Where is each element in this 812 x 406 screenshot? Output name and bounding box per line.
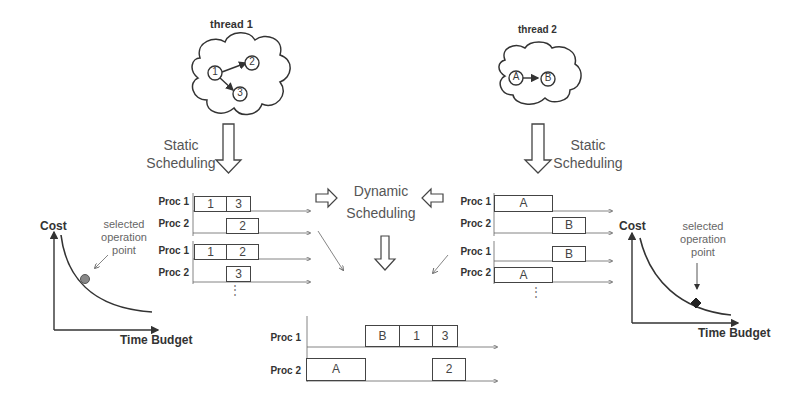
ellipsis-right: ⋮ bbox=[530, 287, 542, 298]
dyn-arrow-from-left bbox=[316, 189, 337, 207]
final-proc2-label: Proc 2 bbox=[257, 365, 301, 376]
node-B: B bbox=[543, 72, 553, 83]
node-1: 1 bbox=[211, 66, 219, 77]
label-line: Static bbox=[550, 136, 626, 154]
dyn-arrow-down bbox=[375, 236, 395, 270]
task-box: 3 bbox=[432, 325, 458, 347]
t1-s1-proc1-label: Proc 1 bbox=[145, 196, 189, 207]
task-box: B bbox=[365, 325, 400, 347]
task-box: 2 bbox=[226, 244, 259, 260]
t2-s2-proc2-label: Proc 2 bbox=[447, 267, 491, 278]
annotation-line: selected bbox=[96, 218, 152, 231]
task-box: B bbox=[552, 246, 586, 262]
left-cost-ylabel: Cost bbox=[40, 219, 67, 233]
task-box: 3 bbox=[226, 266, 251, 282]
t2-s1-proc1-label: Proc 1 bbox=[447, 196, 491, 207]
task-box: 2 bbox=[226, 218, 259, 234]
left-operation-point bbox=[81, 275, 90, 284]
label-line: Scheduling bbox=[340, 202, 422, 224]
static-arrow-right bbox=[525, 124, 551, 173]
thread1-title: thread 1 bbox=[210, 18, 253, 30]
annotation-line: point bbox=[676, 246, 730, 259]
node-3: 3 bbox=[236, 87, 244, 98]
dyn-arrow-from-right bbox=[422, 189, 443, 207]
label-line: Static bbox=[145, 136, 217, 154]
ellipsis-left: ⋮ bbox=[229, 285, 241, 296]
node-A: A bbox=[511, 71, 521, 82]
left-annotation: selected operation point bbox=[96, 218, 152, 257]
static-scheduling-left-label: Static Scheduling bbox=[145, 136, 217, 172]
task-box: A bbox=[494, 195, 553, 212]
t2-s2-proc1-label: Proc 1 bbox=[447, 246, 491, 257]
task-box: A bbox=[494, 267, 553, 283]
label-line: Scheduling bbox=[145, 154, 217, 172]
task-box: 3 bbox=[226, 196, 251, 212]
task-box: B bbox=[552, 217, 586, 234]
right-cost-ylabel: Cost bbox=[619, 219, 646, 233]
task-box: 1 bbox=[194, 244, 227, 260]
static-scheduling-right-label: Static Scheduling bbox=[550, 136, 626, 172]
label-line: Scheduling bbox=[550, 154, 626, 172]
task-box: 2 bbox=[432, 358, 466, 381]
thread1-cloud bbox=[192, 33, 290, 115]
dynamic-scheduling-label: Dynamic Scheduling bbox=[340, 180, 422, 224]
right-cost-xlabel: Time Budget bbox=[698, 326, 770, 340]
t2-s1-proc2-label: Proc 2 bbox=[447, 218, 491, 229]
thread2-title: thread 2 bbox=[518, 24, 557, 35]
final-proc1-label: Proc 1 bbox=[257, 332, 301, 343]
annotation-line: point bbox=[96, 244, 152, 257]
task-box: 1 bbox=[194, 196, 227, 212]
right-operation-point bbox=[691, 298, 701, 308]
label-line: Dynamic bbox=[340, 180, 422, 202]
annotation-line: operation bbox=[676, 233, 730, 246]
annotation-line: operation bbox=[96, 231, 152, 244]
left-cost-xlabel: Time Budget bbox=[120, 333, 192, 347]
task-box: A bbox=[306, 358, 366, 381]
task-box: 1 bbox=[399, 325, 434, 347]
static-arrow-left bbox=[216, 124, 241, 173]
node-2: 2 bbox=[248, 56, 256, 67]
right-annotation: selected operation point bbox=[676, 220, 730, 259]
annotation-line: selected bbox=[676, 220, 730, 233]
t1-s2-proc2-label: Proc 2 bbox=[145, 267, 189, 278]
